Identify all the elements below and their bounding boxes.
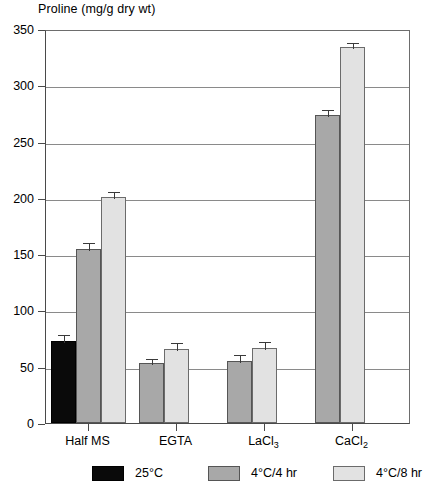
- error-bar: [240, 355, 241, 363]
- error-bar: [89, 243, 90, 251]
- bar: [51, 341, 76, 423]
- error-bar-cap: [83, 243, 95, 244]
- y-axis-label: 0: [0, 418, 34, 431]
- x-axis-tick: [88, 424, 89, 431]
- y-axis-tick: [38, 368, 45, 369]
- error-bar: [328, 110, 329, 117]
- x-axis-tick: [352, 424, 353, 431]
- legend-item: 4°C/4 hr: [208, 462, 297, 484]
- bar: [139, 363, 164, 423]
- error-bar-cap: [58, 335, 70, 336]
- error-bar: [114, 192, 115, 199]
- y-axis-label: 150: [0, 249, 34, 262]
- bar: [315, 115, 340, 423]
- error-bar-cap: [259, 342, 271, 343]
- y-axis-label: 250: [0, 136, 34, 149]
- bar: [76, 249, 101, 423]
- y-axis-label: 50: [0, 361, 34, 374]
- x-axis-label: CaCl2: [335, 434, 368, 448]
- error-bar: [64, 335, 65, 343]
- x-axis-label: Half MS: [65, 434, 109, 448]
- legend-label: 25°C: [135, 466, 163, 480]
- x-axis-tick: [264, 424, 265, 431]
- y-axis-label: 300: [0, 80, 34, 93]
- legend-swatch: [92, 466, 124, 481]
- y-axis-tick: [38, 199, 45, 200]
- y-axis-label: 100: [0, 305, 34, 318]
- legend-swatch: [208, 466, 240, 481]
- y-axis-tick: [38, 424, 45, 425]
- y-axis-label: 350: [0, 24, 34, 37]
- error-bar-cap: [347, 43, 359, 44]
- x-axis-tick: [176, 424, 177, 431]
- error-bar: [265, 342, 266, 350]
- y-axis-tick: [38, 143, 45, 144]
- bar: [227, 361, 252, 423]
- error-bar-cap: [108, 192, 120, 193]
- y-axis-tick: [38, 86, 45, 87]
- error-bar-cap: [146, 359, 158, 360]
- legend-label: 4°C/8 hr: [376, 466, 422, 480]
- legend-item: 25°C: [92, 462, 163, 484]
- x-axis-label: LaCl3: [248, 434, 279, 448]
- y-axis-tick: [38, 311, 45, 312]
- error-bar-cap: [234, 355, 246, 356]
- legend-label: 4°C/4 hr: [251, 466, 297, 480]
- y-axis-tick: [38, 255, 45, 256]
- error-bar: [152, 359, 153, 366]
- error-bar-cap: [171, 343, 183, 344]
- error-bar: [177, 343, 178, 351]
- bar: [252, 348, 277, 423]
- legend-swatch: [333, 466, 365, 481]
- bar: [340, 47, 365, 423]
- bar: [101, 197, 126, 423]
- error-bar-cap: [322, 110, 334, 111]
- legend-item: 4°C/8 hr: [333, 462, 422, 484]
- proline-bar-chart: Proline (mg/g dry wt) 050100150200250300…: [0, 0, 428, 490]
- y-axis-label: 200: [0, 193, 34, 206]
- plot-area: [45, 30, 410, 424]
- y-axis-title: Proline (mg/g dry wt): [38, 2, 155, 16]
- chart-legend: 25°C4°C/4 hr4°C/8 hr: [0, 462, 428, 488]
- y-axis-tick: [38, 30, 45, 31]
- bar: [164, 349, 189, 423]
- x-axis-label: EGTA: [159, 434, 192, 448]
